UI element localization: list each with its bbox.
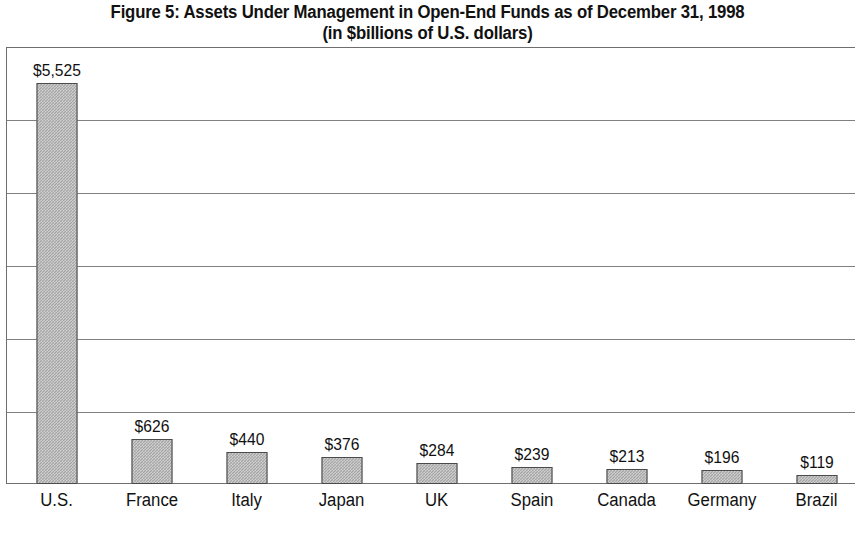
category-label: U.S. [41, 490, 74, 511]
bars-layer: $5,525$626$440$376$284$239$213$196$119 [6, 47, 855, 484]
chart-title-line-2: (in $billions of U.S. dollars) [30, 23, 825, 44]
bar-value-label: $284 [420, 441, 455, 460]
category-tick-italy: Italy [200, 490, 295, 511]
bar-value-label: $376 [325, 435, 360, 454]
figure-container: Figure 5: Assets Under Management in Ope… [0, 0, 855, 534]
bar[interactable] [512, 467, 553, 484]
bar-value-label: $119 [800, 453, 834, 472]
chart-title-line-1: Figure 5: Assets Under Management in Ope… [30, 2, 825, 23]
category-label: Italy [232, 490, 263, 511]
bar-slot: $196 [675, 47, 770, 484]
bar[interactable] [322, 457, 363, 484]
bar[interactable] [417, 463, 458, 484]
category-tick-spain: Spain [485, 490, 580, 511]
category-tick-u-s: U.S. [10, 490, 105, 511]
category-label: Brazil [796, 490, 838, 511]
category-tick-france: France [105, 490, 200, 511]
bar[interactable] [797, 475, 838, 484]
bar-value-label: $626 [135, 417, 170, 436]
category-label: France [126, 490, 178, 511]
bar-slot: $239 [485, 47, 580, 484]
bar-slot: $284 [390, 47, 485, 484]
bar[interactable] [132, 439, 173, 484]
bar[interactable] [607, 469, 648, 484]
bar-slot: $376 [295, 47, 390, 484]
bar[interactable] [227, 452, 268, 484]
category-tick-germany: Germany [675, 490, 770, 511]
category-tick-uk: UK [390, 490, 485, 511]
bar-value-label: $440 [230, 430, 265, 449]
category-tick-brazil: Brazil [770, 490, 855, 511]
bar-value-label: $5,525 [33, 61, 81, 80]
bar[interactable] [37, 83, 78, 484]
bar[interactable] [702, 470, 743, 484]
bar-slot: $440 [200, 47, 295, 484]
bar-value-label: $196 [705, 448, 740, 467]
bar-slot: $5,525 [10, 47, 105, 484]
category-axis-labels: U.S.FranceItalyJapanUKSpainCanadaGermany… [6, 490, 855, 518]
category-tick-japan: Japan [295, 490, 390, 511]
category-label: Japan [319, 490, 365, 511]
bar-slot: $213 [580, 47, 675, 484]
category-label: UK [425, 490, 448, 511]
bar-slot: $626 [105, 47, 200, 484]
bar-value-label: $239 [515, 445, 550, 464]
category-label: Canada [598, 490, 657, 511]
bar-value-label: $213 [610, 447, 645, 466]
category-tick-canada: Canada [580, 490, 675, 511]
bar-slot: $119 [770, 47, 855, 484]
category-label: Germany [688, 490, 757, 511]
chart-title: Figure 5: Assets Under Management in Ope… [0, 2, 855, 44]
category-label: Spain [511, 490, 554, 511]
